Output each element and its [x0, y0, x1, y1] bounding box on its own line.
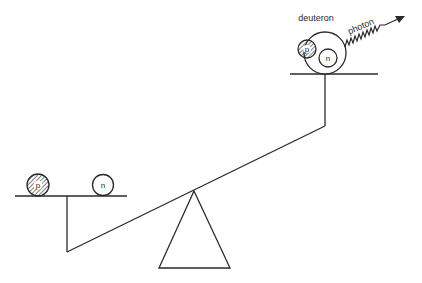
proton-deuteron: p — [298, 40, 316, 58]
photon-label: photon — [346, 16, 375, 36]
deuteron: p n — [298, 32, 346, 74]
neutron-left: n — [93, 175, 114, 196]
deuteron-label: deuteron — [298, 13, 334, 23]
seesaw-diagram: p n p n deuteron photon — [0, 0, 422, 283]
proton-deuteron-label: p — [305, 45, 310, 54]
neutron-deuteron: n — [319, 49, 337, 67]
neutron-left-label: n — [101, 181, 105, 190]
neutron-deuteron-label: n — [326, 54, 330, 63]
proton-left-label: p — [36, 181, 41, 190]
proton-left: p — [27, 174, 49, 196]
